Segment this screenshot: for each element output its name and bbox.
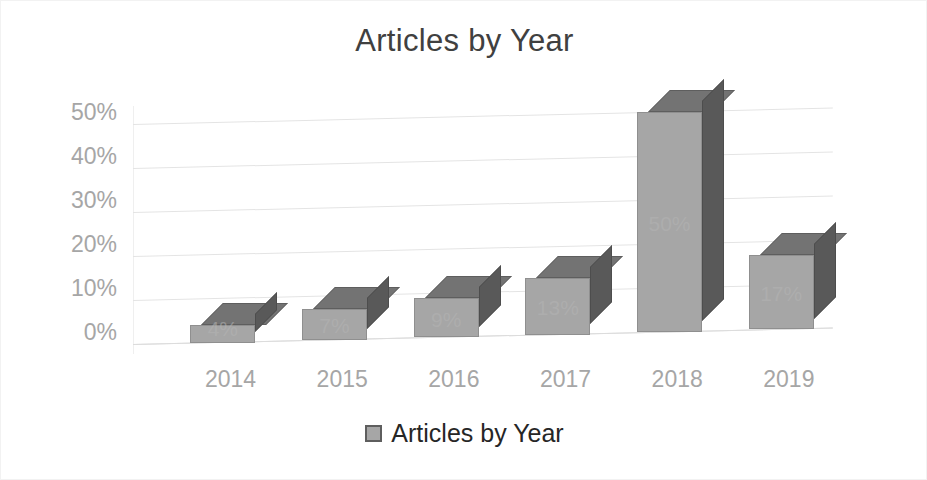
chart-title: Articles by Year [1, 23, 927, 59]
bar-2019[interactable]: 17% [749, 233, 814, 330]
x-axis-tick-2017: 2017 [540, 366, 591, 393]
gridline-50 [133, 108, 833, 125]
y-axis-tick-30: 30% [27, 186, 117, 213]
x-axis-tick-2015: 2015 [317, 366, 368, 393]
bar-2016[interactable]: 9% [414, 276, 479, 338]
x-axis-tick-2016: 2016 [428, 366, 479, 393]
legend-swatch-icon [365, 425, 382, 442]
x-axis-tick-2014: 2014 [205, 366, 256, 393]
bar-value-label-2015: 7% [302, 314, 367, 338]
y-axis-tick-0: 0% [27, 318, 117, 345]
bar-2014[interactable]: 4% [190, 303, 255, 343]
bar-2017[interactable]: 13% [525, 256, 590, 335]
bar-side-face [702, 79, 724, 321]
bar-2018[interactable]: 50% [637, 90, 702, 332]
x-axis-tick-2018: 2018 [652, 366, 703, 393]
gridline-30 [133, 196, 833, 213]
bar-value-label-2016: 9% [414, 308, 479, 332]
bar-value-label-2014: 4% [190, 317, 255, 341]
chart-legend: Articles by Year [1, 419, 927, 448]
bar-value-label-2017: 13% [525, 296, 590, 320]
bar-value-label-2019: 17% [749, 282, 814, 306]
axis-wall-edge [133, 106, 134, 354]
gridline-40 [133, 152, 833, 169]
bar-side-face [479, 265, 501, 327]
gridline-20 [133, 240, 833, 257]
x-axis-tick-2019: 2019 [763, 366, 814, 393]
plot-area: 50%40%30%20%10%0%4%20147%20159%201613%20… [133, 106, 833, 354]
y-axis-tick-10: 10% [27, 274, 117, 301]
chart-container: Articles by Year 50%40%30%20%10%0%4%2014… [0, 0, 927, 480]
bar-value-label-2018: 50% [637, 212, 702, 236]
legend-label: Articles by Year [391, 419, 563, 448]
y-axis-tick-50: 50% [27, 98, 117, 125]
y-axis-tick-40: 40% [27, 142, 117, 169]
y-axis-tick-20: 20% [27, 230, 117, 257]
bar-side-face [367, 276, 389, 329]
bar-2015[interactable]: 7% [302, 287, 367, 340]
